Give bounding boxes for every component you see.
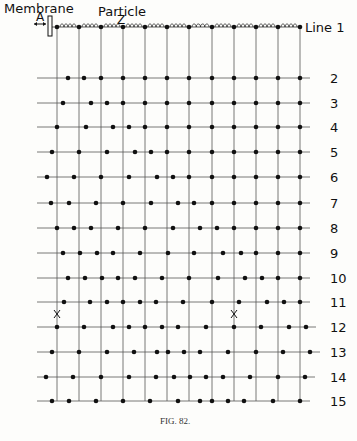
particle-dot <box>149 201 154 206</box>
particle-dot <box>232 201 237 206</box>
row-label: 13 <box>330 345 347 360</box>
particle-dot <box>298 399 303 404</box>
particle-dot <box>138 300 143 305</box>
particle-dot <box>78 251 83 256</box>
particle-dot <box>94 399 99 404</box>
particle-dot <box>143 325 148 330</box>
particle-dot <box>181 300 186 305</box>
row-label: Line 1 <box>305 20 345 35</box>
particle-dot <box>298 150 303 155</box>
particle-dot <box>77 25 82 30</box>
particle-dot <box>204 325 209 330</box>
particle-dot <box>127 175 132 180</box>
particle-dot <box>72 226 77 231</box>
particle-dot <box>50 399 55 404</box>
particle-dot <box>232 125 237 130</box>
particle-dot <box>232 25 237 30</box>
particle-dot <box>287 325 292 330</box>
particle-dot <box>105 101 110 106</box>
particle-dot <box>210 175 215 180</box>
particle-dot <box>232 325 237 330</box>
row-label: 15 <box>330 394 347 409</box>
row-label: 9 <box>330 246 338 261</box>
particle-dot <box>66 276 71 281</box>
particle-dot <box>94 201 99 206</box>
particle-dot <box>187 125 192 130</box>
spring-icon <box>215 24 231 27</box>
x-markers <box>54 310 237 318</box>
particle-dot <box>55 226 60 231</box>
particle-dot <box>49 201 54 206</box>
particle-dot <box>232 76 237 81</box>
particle-dot <box>254 76 259 81</box>
spring-icon <box>259 24 275 27</box>
particle-dot <box>276 175 281 180</box>
particle-dot <box>254 350 259 355</box>
particle-dot <box>166 251 171 256</box>
spring-icon <box>82 24 98 27</box>
particle-dot <box>132 350 137 355</box>
particle-dot <box>89 101 94 106</box>
particle-dot <box>50 350 55 355</box>
particle-dot <box>55 125 60 130</box>
particle-dot <box>176 399 181 404</box>
particle-dot <box>182 350 187 355</box>
particle-dot <box>192 201 197 206</box>
particle-dot <box>172 375 177 380</box>
particle-dot <box>111 251 116 256</box>
particle-dot <box>210 125 215 130</box>
spring-icon <box>170 24 186 27</box>
particle-dot <box>226 399 231 404</box>
particle-dot <box>254 226 259 231</box>
particle-dot <box>226 350 231 355</box>
particle-dot <box>248 375 253 380</box>
particle-dot <box>143 125 148 130</box>
particle-dot <box>254 251 259 256</box>
particle-dot <box>276 25 281 30</box>
particle-dot <box>165 125 170 130</box>
particle-dot <box>83 276 88 281</box>
particle-dot <box>160 325 165 330</box>
particle-dot <box>210 300 215 305</box>
particle-dot <box>187 175 192 180</box>
particle-dot <box>188 375 193 380</box>
particle-dot <box>61 251 66 256</box>
particle-dot <box>276 251 281 256</box>
particle-dot <box>254 175 259 180</box>
particle-dot <box>221 251 226 256</box>
particle-dot <box>89 226 94 231</box>
particle-dot <box>143 25 148 30</box>
particle-dot <box>232 150 237 155</box>
particle-dot <box>99 25 104 30</box>
particle-dot <box>198 399 203 404</box>
particle-dot <box>192 251 197 256</box>
particle-dot <box>171 226 176 231</box>
particle-dot <box>165 76 170 81</box>
particle-dot <box>276 201 281 206</box>
particle-dot <box>298 76 303 81</box>
particle-dot <box>61 101 66 106</box>
particle-dot <box>187 276 192 281</box>
particle-dot <box>105 300 110 305</box>
vertical-grid-lines <box>57 27 300 401</box>
particle-dot <box>210 399 215 404</box>
particle-dot <box>111 325 116 330</box>
membrane-letter: A <box>36 10 45 24</box>
particle-dot <box>121 76 126 81</box>
particle-dot <box>67 201 72 206</box>
particle-dot <box>127 375 132 380</box>
particle-dot <box>143 101 148 106</box>
particle-dot <box>149 150 154 155</box>
particle-dot <box>55 25 60 30</box>
particle-dot <box>155 350 160 355</box>
particle-dot <box>121 201 126 206</box>
particle-dot <box>276 276 281 281</box>
particle-dot <box>239 251 244 256</box>
row-label: 12 <box>330 320 347 335</box>
particle-dot <box>276 226 281 231</box>
particle-dot <box>232 101 237 106</box>
particle-dot <box>84 125 89 130</box>
particle-dot <box>254 101 259 106</box>
row-label: 8 <box>330 221 338 236</box>
particle-dot <box>116 276 121 281</box>
